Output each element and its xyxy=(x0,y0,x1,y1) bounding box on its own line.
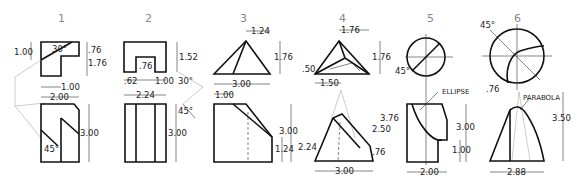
figure-4: 4 1.76 1.76 .50 1.50 2.24 3.76 2.50 .76 … xyxy=(298,12,399,176)
dim-height: 3.50 xyxy=(552,113,571,123)
dim-offset: 1.00 xyxy=(215,90,234,100)
front-view xyxy=(315,114,373,161)
dim-c: .50 xyxy=(302,64,316,74)
figure-number: 6 xyxy=(514,12,521,25)
dim-d: 1.50 xyxy=(320,78,339,88)
dim-angle-45: 45° xyxy=(178,106,193,116)
dim-front-height: 3.00 xyxy=(279,126,298,136)
dim-h: .76 xyxy=(372,147,386,157)
ellipse-curve xyxy=(412,104,442,140)
dim-front-angle: 45° xyxy=(44,144,59,154)
dim-depth-b: 1.76 xyxy=(88,58,107,68)
dim-width: 2.88 xyxy=(507,167,526,177)
dim-front-height: 3.00 xyxy=(168,128,187,138)
drawing-canvas: 1 30° 1.00 .76 1.76 1.00 2.00 3.00 45° 2… xyxy=(0,0,582,186)
cut-curve xyxy=(507,46,544,83)
dim-width: 3.00 xyxy=(232,79,251,89)
dim-height: 3.00 xyxy=(456,122,475,132)
dim-width: 2.00 xyxy=(420,167,439,177)
dim-height: 1.52 xyxy=(179,52,198,62)
dim-width: 3.00 xyxy=(335,166,354,176)
dim-width-a: 1.00 xyxy=(61,82,80,92)
dim-b: 1.76 xyxy=(274,52,293,62)
top-view xyxy=(214,41,270,74)
figure-number: 5 xyxy=(427,12,434,25)
dim-a: 1.76 xyxy=(341,25,360,35)
dim-step: 1.24 xyxy=(275,144,294,154)
dim-b: 1.00 xyxy=(155,76,174,86)
dim-front-height: 3.00 xyxy=(80,128,99,138)
dim-depth-a: .76 xyxy=(88,45,102,55)
figure-3: 3 1.24 1.76 3.00 1.00 3.00 1.24 xyxy=(214,12,298,162)
dim-b: 1.76 xyxy=(372,52,391,62)
figure-number: 2 xyxy=(145,12,152,25)
dim-angle-30: 30° xyxy=(178,76,193,86)
figure-number: 1 xyxy=(58,12,65,25)
dim-f: 3.76 xyxy=(380,113,399,123)
dim-width: 2.24 xyxy=(136,90,155,100)
front-view xyxy=(490,107,544,161)
figure-1: 1 30° 1.00 .76 1.76 1.00 2.00 3.00 45° xyxy=(14,12,107,162)
figure-5: 5 45° ELLIPSE 3.00 1.00 2.00 xyxy=(395,12,475,177)
dim-g: 2.50 xyxy=(372,124,391,134)
figure-2: 2 .76 1.52 .62 1.00 30° 2.24 45° 3.00 xyxy=(124,12,203,162)
figure-number: 3 xyxy=(240,12,247,25)
figure-number: 4 xyxy=(339,12,346,25)
parabola-label: PARABOLA xyxy=(523,94,560,102)
dim-angle: 45° xyxy=(395,66,410,76)
dim-width-b: 2.00 xyxy=(50,92,69,102)
dim-angle: 45° xyxy=(480,20,495,30)
dim-a: 1.24 xyxy=(251,26,270,36)
dim-e: 2.24 xyxy=(298,142,317,152)
ellipse-label: ELLIPSE xyxy=(442,88,469,96)
figure-6: 6 45° .76 PARABOLA 3.50 2.88 xyxy=(480,12,571,177)
dim-angle: 30° xyxy=(52,44,67,54)
dim-offset: .76 xyxy=(486,84,500,94)
dim-a: .62 xyxy=(124,76,138,86)
dim-height: 1.00 xyxy=(14,47,33,57)
dim-slot: .76 xyxy=(139,61,153,71)
front-view xyxy=(125,104,166,162)
dim-step: 1.00 xyxy=(452,145,471,155)
